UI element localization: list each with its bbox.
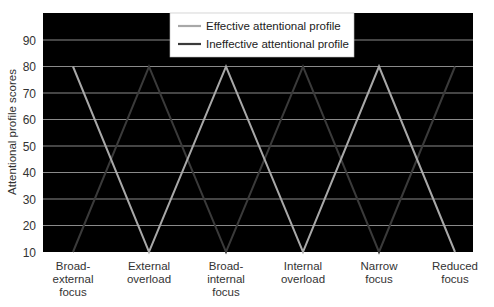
y-tick-label: 40 <box>23 166 37 180</box>
y-axis-label: Attentional profile scores <box>6 69 18 195</box>
y-tick-label: 80 <box>23 60 37 74</box>
x-category-label: Broad-internalfocus <box>207 260 245 298</box>
y-tick-label: 60 <box>23 113 37 127</box>
y-tick-label: 70 <box>23 87 37 101</box>
x-axis-categories: Broad-externalfocusExternaloverloadBroad… <box>53 260 478 298</box>
y-tick-label: 10 <box>23 246 37 260</box>
y-tick-label: 20 <box>23 219 37 233</box>
y-tick-label: 50 <box>23 140 37 154</box>
y-tick-label: 30 <box>23 193 37 207</box>
legend: Effective attentional profileIneffective… <box>170 13 354 57</box>
x-category-label: Externaloverload <box>127 260 171 285</box>
x-category-label: Broad-externalfocus <box>53 260 94 298</box>
x-category-label: Narrowfocus <box>360 260 398 285</box>
y-tick-label: 90 <box>23 34 37 48</box>
legend-label: Effective attentional profile <box>206 20 341 32</box>
y-axis-ticks: 102030405060708090 <box>23 34 37 260</box>
x-category-label: Reducedfocus <box>432 260 478 285</box>
line-chart: 102030405060708090 Attentional profile s… <box>0 0 494 307</box>
x-category-label: Internaloverload <box>281 260 325 285</box>
legend-label: Ineffective attentional profile <box>206 38 349 50</box>
